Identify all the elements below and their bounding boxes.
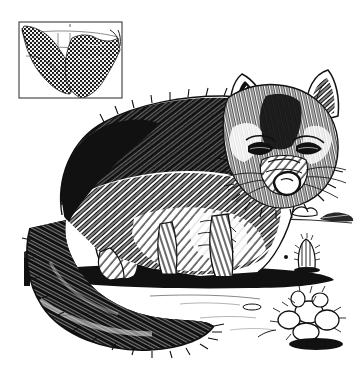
illustration-plate: Kit Fox (0, 0, 357, 373)
inset-range-map (0, 0, 357, 373)
